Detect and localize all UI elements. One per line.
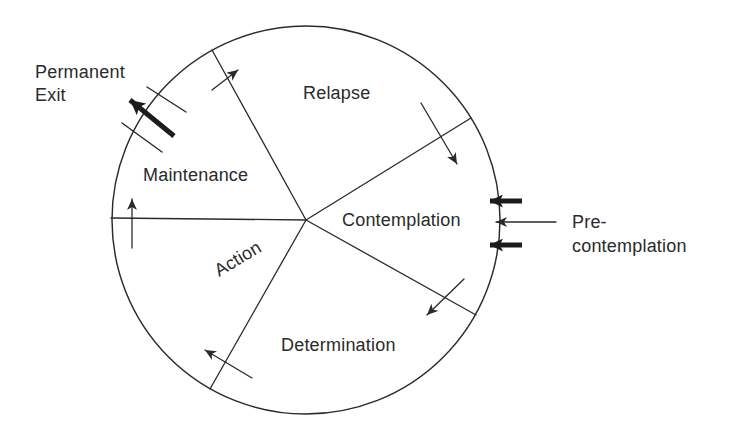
permanent-exit-label-line1: Permanent <box>35 61 125 84</box>
divider-relapse-contemplation <box>306 118 471 220</box>
transition-arrow-contemplation-to-determination-icon <box>427 279 464 315</box>
stage-label-determination: Determination <box>281 335 396 356</box>
permanent-exit-label-line2: Exit <box>35 84 125 107</box>
exit-gate-line-lower-icon <box>122 123 162 152</box>
precontemplation-label-line2: contemplation <box>572 234 687 258</box>
stage-label-contemplation: Contemplation <box>342 210 461 231</box>
divider-maintenance-action <box>111 218 306 220</box>
precontemplation-label-line1: Pre- <box>572 210 687 234</box>
permanent-exit-label: Permanent Exit <box>35 61 125 107</box>
transition-arrow-relapse-to-contemplation-icon <box>421 103 457 164</box>
divider-maintenance-relapse <box>212 50 306 220</box>
precontemplation-label: Pre- contemplation <box>572 210 687 258</box>
stages-of-change-diagram: Relapse Maintenance Contemplation Determ… <box>0 0 735 433</box>
transition-arrow-determination-to-action-icon <box>205 350 252 378</box>
stage-label-maintenance: Maintenance <box>143 165 248 186</box>
divider-contemplation-determination <box>306 220 476 315</box>
exit-gate-line-upper-icon <box>147 87 186 112</box>
stage-label-relapse: Relapse <box>303 83 370 104</box>
permanent-exit-arrow-icon <box>130 100 174 136</box>
